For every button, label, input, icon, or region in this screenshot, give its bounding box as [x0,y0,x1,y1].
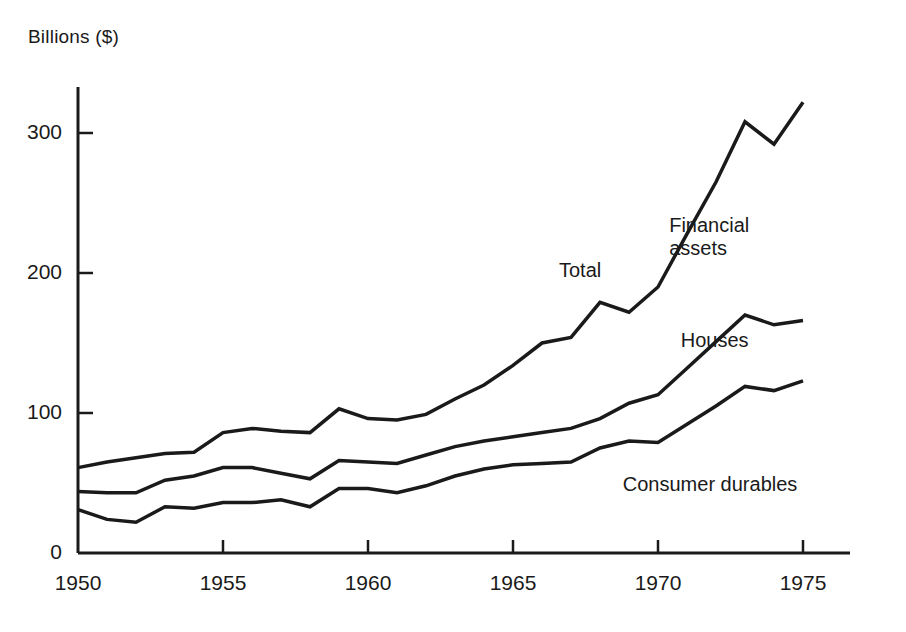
x-tick-label: 1970 [618,571,698,595]
x-tick-label: 1960 [328,571,408,595]
x-tick-label: 1965 [473,571,553,595]
y-tick-label: 100 [0,400,62,424]
x-tick-label: 1955 [183,571,263,595]
y-tick-label: 0 [0,540,62,564]
series-annotation-3: Consumer durables [623,473,798,496]
chart-container: Billions ($) 010020030019501955196019651… [0,0,906,632]
series-annotation-0: Total [559,259,601,282]
series-annotation-2: Houses [681,329,749,352]
y-tick-label: 300 [0,120,62,144]
series-line-0 [78,102,803,467]
x-tick-label: 1950 [38,571,118,595]
x-tick-label: 1975 [763,571,843,595]
chart-plot-area [0,0,906,632]
chart-series [78,102,803,522]
y-tick-label: 200 [0,260,62,284]
series-annotation-1: Financial assets [669,214,749,260]
